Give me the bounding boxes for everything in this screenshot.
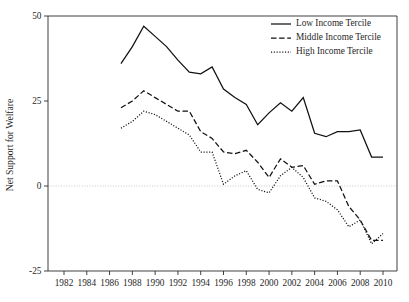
x-tick-label: 2004 (305, 278, 324, 288)
chart-figure: 1982198419861988199019921994199619982000… (0, 0, 409, 302)
x-tick-label: 1988 (123, 278, 142, 288)
x-tick-label: 1990 (146, 278, 165, 288)
x-tick-label: 2000 (260, 278, 279, 288)
x-tick-label: 1996 (214, 278, 233, 288)
legend-label: High Income Tercile (296, 46, 373, 56)
x-tick-label: 2008 (351, 278, 370, 288)
y-tick-label: 0 (37, 181, 42, 191)
y-axis-title: Net Support for Welfare (4, 99, 15, 192)
legend-label: Low Income Tercile (296, 18, 371, 28)
y-tick-label: 50 (32, 11, 42, 21)
y-tick-label: -25 (29, 266, 42, 276)
x-tick-label: 1984 (77, 278, 96, 288)
x-tick-label: 2006 (328, 278, 347, 288)
legend-label: Middle Income Tercile (296, 32, 381, 42)
x-tick-label: 1982 (55, 278, 74, 288)
x-tick-label: 1992 (169, 278, 188, 288)
x-tick-label: 1986 (100, 278, 119, 288)
y-tick-label: 25 (32, 96, 42, 106)
x-tick-label: 2002 (283, 278, 302, 288)
net-support-for-welfare-line-chart: 1982198419861988199019921994199619982000… (0, 0, 409, 302)
x-tick-label: 1998 (237, 278, 256, 288)
x-tick-label: 2010 (374, 278, 393, 288)
x-tick-label: 1994 (191, 278, 210, 288)
